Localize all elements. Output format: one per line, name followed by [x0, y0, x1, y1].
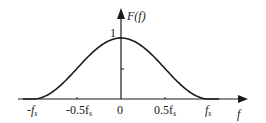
y-tick-label-one: 1 — [110, 26, 116, 40]
x-axis-arrow-icon — [238, 95, 248, 103]
x-tick-label-pos-half-fs: 0.5fs — [154, 103, 176, 118]
x-tick-label-neg-fs: -fs — [27, 103, 37, 118]
chart-canvas: F(f) 1 f -fs -0.5fs 0 0.5fs fs — [0, 0, 266, 123]
y-axis-label: F(f) — [126, 9, 146, 23]
x-tick-label-pos-fs: fs — [205, 103, 211, 118]
x-tick-label-neg-half-fs: -0.5fs — [66, 103, 92, 118]
y-axis-arrow-icon — [117, 8, 125, 19]
x-axis-label: f — [237, 107, 242, 121]
x-tick-label-origin: 0 — [117, 103, 123, 117]
